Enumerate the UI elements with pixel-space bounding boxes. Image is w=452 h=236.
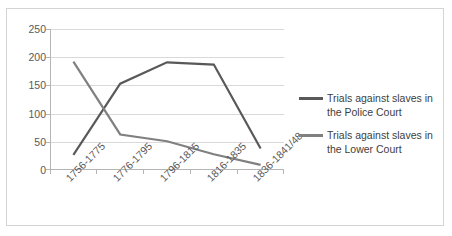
legend-item-label: Trials against slaves in the Police Cour… xyxy=(327,91,437,119)
y-tick-label: 200 xyxy=(12,52,46,62)
y-axis-labels: 250 200 150 100 50 0 xyxy=(12,29,46,170)
chart-legend: Trials against slaves in the Police Cour… xyxy=(299,91,441,165)
chart-container: 250 200 150 100 50 0 1756-1775 xyxy=(6,8,444,226)
series-lines xyxy=(50,29,284,170)
x-axis-labels: 1756-1775 1776-1795 1796-1815 1816-1835 … xyxy=(50,172,310,227)
y-tick-label: 250 xyxy=(12,24,46,34)
legend-color-swatch xyxy=(299,134,323,137)
y-tick-label: 0 xyxy=(12,165,46,175)
legend-item-label: Trials against slaves in the Lower Court xyxy=(327,128,437,156)
legend-color-swatch xyxy=(299,97,323,100)
legend-item-police-court: Trials against slaves in the Police Cour… xyxy=(299,91,441,119)
y-tick-label: 100 xyxy=(12,109,46,119)
plot-area xyxy=(50,29,284,170)
y-tick-label: 50 xyxy=(12,137,46,147)
y-tick-label: 150 xyxy=(12,80,46,90)
legend-item-lower-court: Trials against slaves in the Lower Court xyxy=(299,128,441,156)
